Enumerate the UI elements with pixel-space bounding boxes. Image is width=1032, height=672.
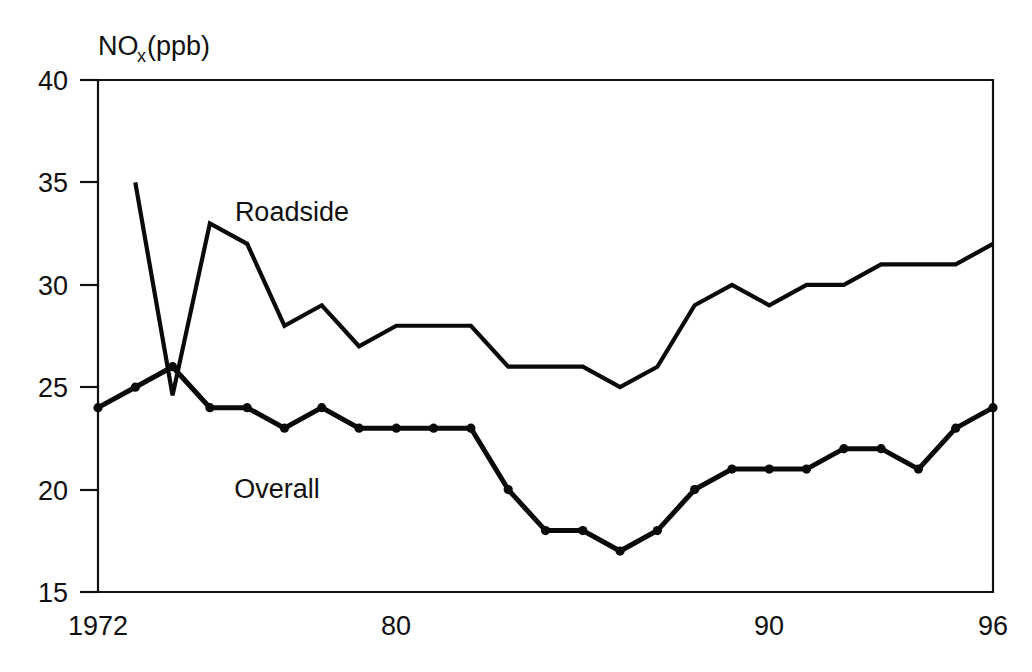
data-point <box>466 424 475 433</box>
x-tick-label-90: 90 <box>754 611 784 641</box>
data-point <box>765 465 774 474</box>
data-point <box>205 403 214 412</box>
data-point <box>168 362 177 371</box>
chart-figure: NO x (ppb) 40 35 30 25 20 15 197 <box>0 0 1032 672</box>
data-point <box>802 465 811 474</box>
data-point <box>317 403 326 412</box>
data-point <box>93 403 102 412</box>
x-tick-label-1972: 1972 <box>68 611 128 641</box>
y-tick-label-30: 30 <box>38 271 68 301</box>
data-point <box>131 383 140 392</box>
x-tick-label-80: 80 <box>381 611 411 641</box>
data-point <box>988 403 997 412</box>
annotation-roadside: Roadside <box>235 197 349 227</box>
data-point <box>914 465 923 474</box>
x-tick-label-96: 96 <box>978 611 1008 641</box>
y-axis-title-unit: (ppb) <box>147 31 210 61</box>
data-point <box>839 444 848 453</box>
data-point <box>951 424 960 433</box>
data-point <box>877 444 886 453</box>
y-tick-label-20: 20 <box>38 476 68 506</box>
data-point <box>578 526 587 535</box>
y-tick-label-25: 25 <box>38 373 68 403</box>
data-point <box>541 526 550 535</box>
y-tick-label-15: 15 <box>38 578 68 608</box>
data-point <box>653 526 662 535</box>
data-point <box>429 424 438 433</box>
nox-line-chart: NO x (ppb) 40 35 30 25 20 15 197 <box>0 0 1032 672</box>
data-point <box>243 403 252 412</box>
y-tick-label-40: 40 <box>38 66 68 96</box>
data-point <box>280 424 289 433</box>
data-point <box>727 465 736 474</box>
data-point <box>615 546 624 555</box>
data-point <box>392 424 401 433</box>
y-axis-title: NO x (ppb) <box>98 31 210 66</box>
data-point <box>354 424 363 433</box>
chart-background <box>0 0 1032 672</box>
y-axis-title-subscript: x <box>137 46 146 66</box>
annotation-overall: Overall <box>234 474 320 504</box>
y-axis-title-main: NO <box>98 31 139 61</box>
data-point <box>504 485 513 494</box>
data-point <box>690 485 699 494</box>
y-tick-label-35: 35 <box>38 168 68 198</box>
